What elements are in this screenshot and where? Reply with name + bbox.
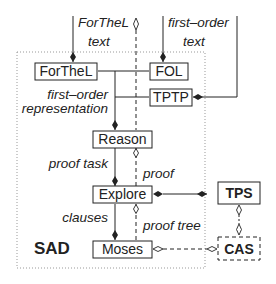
node-fol-label: FOL <box>155 63 182 79</box>
label-fo-repr-line1: first–order <box>47 87 108 102</box>
label-clauses: clauses <box>62 210 108 225</box>
sad-boundary <box>17 52 205 268</box>
node-reason: Reason <box>93 131 152 148</box>
cas-side-open-diamond-icon <box>237 224 242 235</box>
node-tps: TPS <box>218 182 260 204</box>
label-forthel-text-line1: ForTheL <box>78 15 129 30</box>
node-forthel: ForTheL <box>35 63 97 80</box>
node-forthel-label: ForTheL <box>40 63 93 79</box>
moses-side-open-diamond-icon <box>153 247 163 252</box>
sad-boundary-label: SAD <box>34 239 70 258</box>
node-cas-label: CAS <box>224 241 254 257</box>
node-explore-label: Explore <box>99 186 147 202</box>
node-tptp: TPTP <box>150 89 192 106</box>
node-tps-label: TPS <box>225 185 252 201</box>
label-proof: proof <box>142 166 175 181</box>
tps-side-open-diamond-icon <box>237 205 242 215</box>
cas-left-open-diamond-icon <box>207 247 217 252</box>
node-tptp-label: TPTP <box>153 89 189 105</box>
label-fo-repr-line2: representation <box>22 101 108 116</box>
label-forthel-text-line2: text <box>88 34 111 49</box>
label-proof-tree: proof tree <box>142 218 201 233</box>
proof-output-diamond-icon <box>134 18 139 30</box>
label-proof-task: proof task <box>48 156 110 171</box>
label-fo-text-line2: text <box>183 34 206 49</box>
node-fol: FOL <box>150 63 188 80</box>
node-cas: CAS <box>218 237 260 260</box>
node-moses: Moses <box>93 241 152 258</box>
node-reason-label: Reason <box>98 131 146 147</box>
label-fo-text-line1: first–order <box>168 15 229 30</box>
sad-architecture-diagram: ForTheL FOL TPTP Reason Explore Moses TP… <box>0 0 276 284</box>
node-explore: Explore <box>93 186 152 203</box>
node-moses-label: Moses <box>102 241 143 257</box>
explore-side-diamond-icon <box>153 191 163 197</box>
